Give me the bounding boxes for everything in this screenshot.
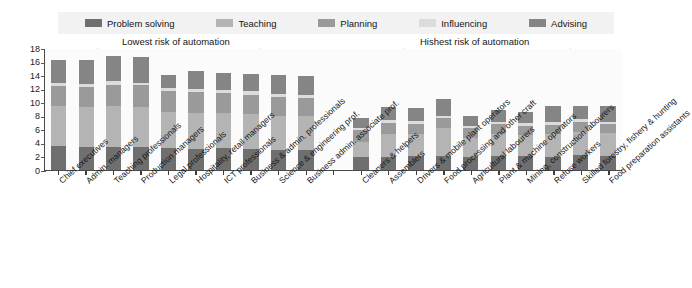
legend-label-planning: Planning (340, 18, 377, 29)
stacked-bar[interactable] (51, 60, 66, 170)
legend-item-teaching: Teaching (216, 18, 276, 29)
x-axis-tick-mark (471, 171, 472, 175)
bar-segment-advising (216, 73, 231, 90)
bar-segment-advising (106, 56, 121, 82)
y-axis-tick-label: 8 (35, 112, 40, 121)
x-label-slot: Business admin. associate prof. (292, 176, 320, 288)
legend-swatch-teaching (216, 19, 233, 27)
legend-label-problem-solving: Problem solving (107, 18, 175, 29)
legend-swatch-advising (529, 19, 546, 27)
legend-item-influencing: Influencing (419, 18, 487, 29)
bar-segment-planning (161, 91, 176, 111)
x-axis-labels: Chief executivesAdmin. managersTeaching … (44, 176, 622, 288)
x-axis-tick-mark (416, 171, 417, 175)
bar-segment-advising (298, 76, 313, 95)
x-label-slot: Science & engineering prof. (264, 176, 292, 288)
x-label-slot: Food preparation assistants (595, 176, 623, 288)
bar-segment-planning (188, 92, 203, 113)
bar-segment-planning (216, 93, 231, 112)
legend-label-advising: Advising (551, 18, 587, 29)
x-axis-tick-mark (333, 171, 334, 175)
bar-segment-teaching (51, 106, 66, 146)
legend-item-planning: Planning (318, 18, 377, 29)
x-label-slot (319, 176, 347, 288)
y-axis-tick-label: 0 (35, 167, 40, 176)
bar-segment-advising (161, 75, 176, 88)
x-label-slot: Cleaners & helpers (347, 176, 375, 288)
x-axis-tick-mark (526, 171, 527, 175)
y-axis-tick-label: 18 (30, 45, 40, 54)
bar-segment-problem-solving (51, 146, 66, 170)
legend-label-influencing: Influencing (441, 18, 487, 29)
bar-segment-advising (271, 75, 286, 94)
x-label-slot: Assemblers (374, 176, 402, 288)
x-label-slot: ICT professionals (209, 176, 237, 288)
bar-segment-planning (106, 85, 121, 107)
x-label-slot: Production managers (127, 176, 155, 288)
legend-swatch-problem-solving (85, 19, 102, 27)
x-label-slot: Teaching professionals (99, 176, 127, 288)
bar-segment-planning (133, 85, 148, 107)
bar-segment-advising (79, 60, 94, 84)
bar-segment-advising (545, 106, 560, 123)
chart-legend: Problem solving Teaching Planning Influe… (58, 12, 614, 34)
legend-item-problem-solving: Problem solving (85, 18, 175, 29)
bar-segment-planning (51, 86, 66, 106)
x-axis-tick-mark (58, 171, 59, 175)
bar-segment-advising (51, 60, 66, 83)
x-axis-tick-mark (361, 171, 362, 175)
x-label-slot: Chief executives (44, 176, 72, 288)
bar-segment-advising (243, 74, 258, 91)
y-axis-tick-label: 10 (30, 99, 40, 108)
bar-segment-problem-solving (353, 157, 368, 170)
legend-swatch-planning (318, 19, 335, 27)
x-label-slot: Legal professionals (154, 176, 182, 288)
bar-segment-planning (243, 95, 258, 114)
bar-segment-planning (600, 124, 615, 133)
bar-segment-planning (436, 118, 451, 128)
bar-segment-planning (298, 98, 313, 116)
y-axis-tick-label: 6 (35, 126, 40, 135)
bar-segment-teaching (79, 107, 94, 147)
legend-label-teaching: Teaching (238, 18, 276, 29)
bar-segment-advising (188, 71, 203, 89)
x-label-slot: Refuse workers (540, 176, 568, 288)
bar-segment-advising (133, 57, 148, 83)
x-label-slot: Skilled forestry, fishery & hunting (567, 176, 595, 288)
bar-segment-planning (79, 87, 94, 107)
x-label-slot: Mining, construction labourers (512, 176, 540, 288)
y-axis-tick-label: 14 (30, 72, 40, 81)
y-axis-tick-label: 2 (35, 153, 40, 162)
x-label-slot: Hospitality, retail managers (182, 176, 210, 288)
x-label-slot: Food processing and other craft (429, 176, 457, 288)
y-axis-tick-label: 12 (30, 85, 40, 94)
bar-slot (45, 49, 72, 170)
x-label-slot: Business & admin. professionals (237, 176, 265, 288)
bar-segment-advising (408, 108, 423, 121)
legend-swatch-influencing (419, 19, 436, 27)
x-axis-tick-mark (306, 171, 307, 175)
legend-item-advising: Advising (529, 18, 587, 29)
x-label-slot: Admin. managers (72, 176, 100, 288)
y-axis: 181614121086420 (16, 43, 42, 177)
annotation-highest-risk-label: Hishest risk of automation (420, 36, 529, 47)
y-axis-tick-label: 4 (35, 139, 40, 148)
x-label-slot: Plant & machine operators (485, 176, 513, 288)
bar-segment-advising (436, 99, 451, 115)
annotation-lowest-risk-label: Lowest risk of automation (122, 36, 230, 47)
x-label-slot: Agricultural labourers (457, 176, 485, 288)
y-axis-tick-label: 16 (30, 58, 40, 67)
bar-segment-planning (381, 123, 396, 134)
x-label-slot: Drivers & mobile plant operators (402, 176, 430, 288)
